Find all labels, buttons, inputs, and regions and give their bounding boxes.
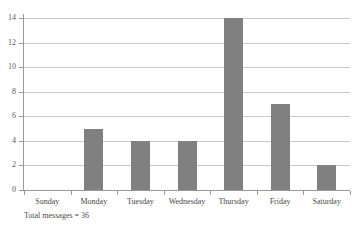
x-tick-mark — [117, 191, 118, 195]
x-tick-mark — [24, 191, 25, 195]
x-tick-mark — [257, 191, 258, 195]
bar-chart: 02468101214 SundayMondayTuesdayWednesday… — [0, 0, 357, 230]
x-tick-label: Sunday — [24, 197, 71, 206]
y-tick-label: 8 — [12, 88, 16, 96]
x-tick-label: Thursday — [210, 197, 257, 206]
y-tick-label: 14 — [8, 14, 16, 22]
plot-area — [24, 18, 350, 190]
x-tick-label: Tuesday — [117, 197, 164, 206]
x-tick-mark — [71, 191, 72, 195]
total-messages-note: Total messages = 36 — [24, 211, 89, 220]
x-tick-mark — [210, 191, 211, 195]
x-tick-label: Wednesday — [164, 197, 211, 206]
bar — [131, 141, 150, 190]
bar — [224, 18, 243, 190]
x-tick-label: Saturday — [303, 197, 350, 206]
y-tick-label: 4 — [12, 137, 16, 145]
bar — [317, 165, 336, 190]
x-axis-line — [24, 190, 350, 191]
y-tick-label: 2 — [12, 161, 16, 169]
bar — [84, 129, 103, 190]
x-tick-label: Monday — [71, 197, 118, 206]
bar — [271, 104, 290, 190]
y-tick-label: 10 — [8, 63, 16, 71]
y-tick-label: 0 — [12, 186, 16, 194]
x-tick-mark — [164, 191, 165, 195]
y-tick-label: 6 — [12, 112, 16, 120]
x-tick-mark — [303, 191, 304, 195]
bar — [178, 141, 197, 190]
y-tick-label: 12 — [8, 39, 16, 47]
x-tick-mark — [350, 191, 351, 195]
x-tick-label: Friday — [257, 197, 304, 206]
